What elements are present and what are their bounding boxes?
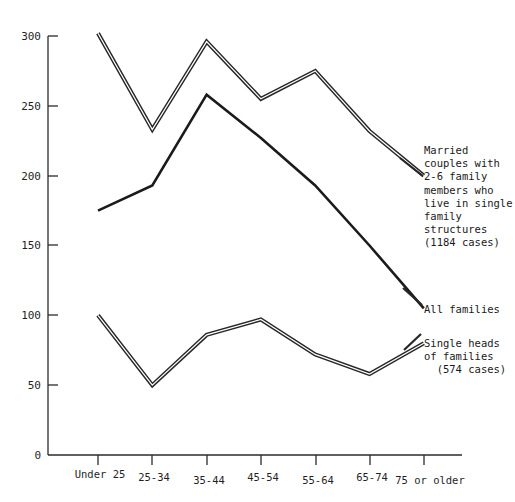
y-axis-tick-labels: 300 250 200 150 100 50 0 (21, 30, 41, 462)
x-tick-label: 65-74 (356, 471, 388, 483)
series-line-outer (98, 315, 424, 385)
line-chart-figure: 300 250 200 150 100 50 0 Under 25 25-34 … (0, 0, 515, 502)
y-tick-label: 200 (21, 170, 41, 183)
annotation-leader-lines (400, 158, 423, 350)
leader-line-married (400, 158, 423, 176)
series-line-inner (98, 33, 424, 175)
annotation-single-heads: Single heads of families (574 cases) (424, 337, 506, 377)
x-tick-label: 55-64 (302, 474, 334, 486)
series-line-solid (98, 95, 424, 309)
annotation-all-families: All families (424, 303, 500, 316)
x-tick-label: Under 25 (75, 468, 126, 480)
x-tick-label: 75 or older (395, 474, 465, 486)
series-line-inner (98, 315, 424, 385)
y-tick-label: 50 (28, 379, 41, 392)
x-tick-label: 25-34 (138, 471, 170, 483)
series-married-couples (98, 33, 424, 175)
series-line-outer (98, 33, 424, 175)
series-all-families (98, 95, 424, 309)
y-tick-label: 100 (21, 309, 41, 322)
y-tick-label: 150 (21, 239, 41, 252)
x-tick-label: 35-44 (193, 474, 225, 486)
chart-plot-area: 300 250 200 150 100 50 0 Under 25 25-34 … (0, 0, 515, 502)
y-tick-label: 250 (21, 100, 41, 113)
y-tick-label: 300 (21, 30, 41, 43)
leader-line-all-families (403, 288, 422, 305)
x-axis-ticks (98, 455, 424, 465)
y-tick-label: 0 (34, 449, 41, 462)
x-tick-label: 45-54 (247, 471, 279, 483)
annotation-married-couples: Married couples with 2-6 family members … (424, 144, 513, 250)
x-axis-tick-labels: Under 25 25-34 35-44 45-54 55-64 65-74 7… (75, 468, 465, 486)
y-axis-ticks (48, 36, 58, 385)
series-single-heads (98, 315, 424, 385)
